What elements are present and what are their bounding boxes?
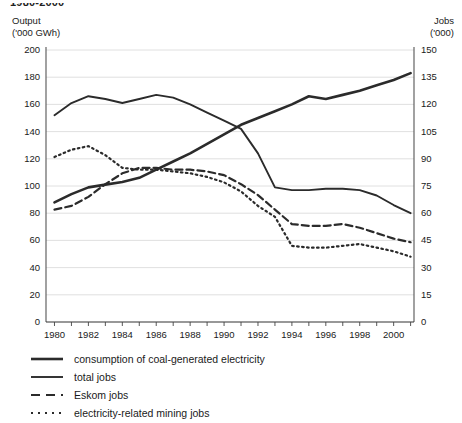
y-tick-label-right: 0 xyxy=(421,316,447,327)
y-tick-label-right: 150 xyxy=(421,44,447,55)
y-tick-label-left: 120 xyxy=(16,153,40,164)
x-tick-label: 1994 xyxy=(275,329,309,340)
y-tick-label-right: 45 xyxy=(421,234,447,245)
x-tick-label: 1998 xyxy=(343,329,377,340)
y-tick-label-left: 80 xyxy=(16,207,40,218)
y-tick-label-right: 135 xyxy=(421,71,447,82)
legend-label: Eskom jobs xyxy=(74,389,128,401)
y-tick-label-left: 60 xyxy=(16,234,40,245)
x-tick-label: 1996 xyxy=(309,329,343,340)
legend: consumption of coal-generated electricit… xyxy=(30,350,360,422)
y-tick-label-left: 160 xyxy=(16,98,40,109)
legend-label: total jobs xyxy=(74,371,116,383)
x-tick-label: 1986 xyxy=(139,329,173,340)
series-line-0 xyxy=(54,95,410,213)
x-tick-label: 2000 xyxy=(377,329,411,340)
legend-item: electricity-related mining jobs xyxy=(30,404,360,422)
y-tick-label-left: 20 xyxy=(16,289,40,300)
y-tick-label-right: 75 xyxy=(421,180,447,191)
legend-item: Eskom jobs xyxy=(30,386,360,404)
figure-container: 1980-2000 Output ('000 GWh) Jobs ('000) … xyxy=(0,0,462,423)
series-line-3 xyxy=(54,168,410,242)
x-tick-label: 1988 xyxy=(173,329,207,340)
line-solid-thick-icon xyxy=(30,353,64,365)
y-tick-label-right: 30 xyxy=(421,262,447,273)
y-tick-label-left: 200 xyxy=(16,44,40,55)
y-tick-label-right: 15 xyxy=(421,289,447,300)
y-tick-label-left: 100 xyxy=(16,180,40,191)
x-tick-label: 1982 xyxy=(71,329,105,340)
data-series-group xyxy=(54,73,410,257)
y-tick-label-right: 120 xyxy=(421,98,447,109)
y-tick-label-left: 140 xyxy=(16,126,40,137)
y-tick-label-right: 105 xyxy=(421,126,447,137)
legend-label: consumption of coal-generated electricit… xyxy=(74,353,265,365)
y-tick-label-right: 90 xyxy=(421,153,447,164)
line-dotted-icon xyxy=(30,407,64,419)
y-tick-label-left: 0 xyxy=(16,316,40,327)
line-dashed-icon xyxy=(30,389,64,401)
y-tick-label-right: 60 xyxy=(421,207,447,218)
y-tick-label-left: 40 xyxy=(16,262,40,273)
legend-label: electricity-related mining jobs xyxy=(74,407,209,419)
y-tick-label-left: 180 xyxy=(16,71,40,82)
x-tick-label: 1980 xyxy=(37,329,71,340)
x-tick-label: 1992 xyxy=(241,329,275,340)
x-tick-label: 1990 xyxy=(207,329,241,340)
line-solid-icon xyxy=(30,371,64,383)
legend-item: consumption of coal-generated electricit… xyxy=(30,350,360,368)
x-tick-label: 1984 xyxy=(105,329,139,340)
legend-item: total jobs xyxy=(30,368,360,386)
